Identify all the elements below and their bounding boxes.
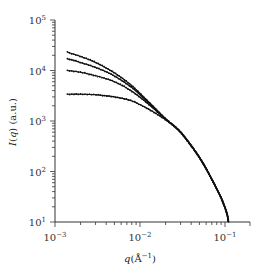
data-series: [67, 51, 230, 223]
series-markers-2: [67, 58, 230, 223]
series-line-1: [67, 52, 228, 222]
x-axis-label: q(Å−1): [124, 252, 156, 264]
series-line-4: [67, 94, 228, 222]
y-tick-label: 104: [29, 65, 47, 77]
x-tick-label: 10−3: [43, 231, 66, 243]
chart: 10−310−210−1101102103104105 q(Å−1) I(q) …: [0, 0, 265, 276]
x-tick-label: 10−2: [128, 231, 151, 243]
tick-labels: 10−310−210−1101102103104105: [29, 14, 237, 243]
y-tick-label: 103: [29, 115, 46, 127]
axes: [55, 20, 250, 222]
series-markers-4: [67, 93, 230, 221]
y-tick-label: 101: [29, 216, 46, 228]
series-line-2: [67, 59, 228, 222]
y-axis-label: I(q) (a.u.): [7, 98, 18, 147]
series-markers-3: [67, 69, 230, 221]
x-tick-label: 10−1: [213, 231, 236, 243]
series-markers-1: [67, 51, 230, 222]
y-tick-label: 102: [29, 166, 46, 178]
series-line-3: [67, 71, 228, 223]
y-tick-label: 105: [29, 14, 46, 26]
